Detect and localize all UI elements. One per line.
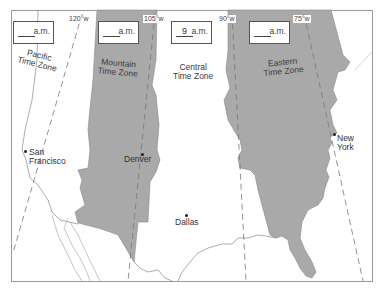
mountain-time-input[interactable] <box>103 27 120 37</box>
central-time-input[interactable]: 9 <box>176 27 193 37</box>
meridian-label-105: 105°w <box>143 15 165 23</box>
central-time-suffix: a.m. <box>191 27 208 36</box>
san-francisco-dot <box>24 150 27 153</box>
san-francisco-label: San Francisco <box>29 148 66 166</box>
denver-label: Denver <box>124 155 151 164</box>
meridian-label-90: 90°w <box>218 15 236 23</box>
central-time-box[interactable]: 9 a.m. <box>171 21 212 44</box>
eastern-time-suffix: a.m. <box>269 27 286 36</box>
central-zone-label: Central Time Zone <box>173 63 213 81</box>
denver-label-line1: Denver <box>124 155 151 164</box>
dallas-label: Dallas <box>175 218 199 227</box>
meridian-label-120: 120°w <box>68 15 90 23</box>
mountain-time-suffix: a.m. <box>118 27 135 36</box>
new-york-dot <box>333 133 336 136</box>
eastern-time-input[interactable] <box>254 27 271 37</box>
eastern-time-box[interactable]: a.m. <box>249 21 290 44</box>
pacific-time-box[interactable]: a.m. <box>13 21 54 44</box>
new-york-label: New York <box>337 134 354 152</box>
central-zone-label-line2: Time Zone <box>173 72 213 81</box>
new-york-label-line2: York <box>337 143 354 152</box>
san-francisco-label-line2: Francisco <box>29 157 66 166</box>
mountain-time-box[interactable]: a.m. <box>98 21 139 44</box>
dallas-label-line1: Dallas <box>175 218 199 227</box>
mountain-zone-label: Mountain Time Zone <box>97 57 139 78</box>
meridian-label-75: 75°w <box>293 15 311 23</box>
pacific-time-suffix: a.m. <box>33 27 50 36</box>
pacific-time-input[interactable] <box>18 27 35 37</box>
